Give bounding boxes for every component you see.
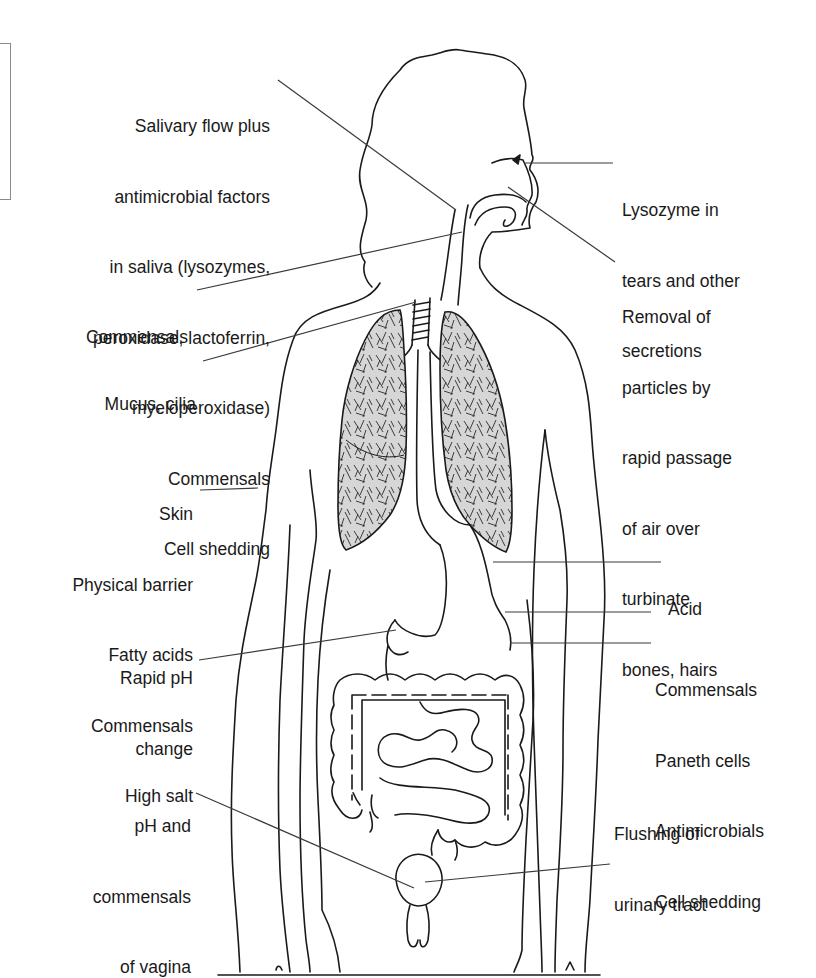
- left-lung: [338, 310, 406, 550]
- label-line: Lysozyme in: [622, 199, 740, 223]
- oral-cavity: [475, 207, 515, 226]
- eye: [513, 155, 520, 164]
- colon-inner-solid: [362, 700, 505, 815]
- label-vagina: pH and commensals of vagina: [40, 768, 191, 978]
- label-line: Physical barrier: [40, 574, 193, 598]
- label-line: Acid: [668, 598, 702, 622]
- left-inner-arm: [300, 470, 316, 972]
- label-line: of air over: [622, 518, 732, 542]
- left-waist: [317, 570, 341, 972]
- leader-urinary: [425, 864, 610, 882]
- label-line: Mucus, cilia: [40, 393, 196, 417]
- label-urinary: Flushing of urinary tract: [614, 776, 706, 941]
- right-arm-outer: [533, 430, 546, 972]
- appendix: [370, 812, 372, 832]
- vagina: [407, 905, 429, 947]
- label-line: change: [40, 738, 193, 762]
- bladder: [396, 854, 442, 906]
- label-line: Paneth cells: [655, 750, 764, 774]
- label-line: Flushing of: [614, 823, 706, 847]
- label-line: of vagina: [40, 956, 191, 978]
- label-line: Skin: [40, 503, 193, 527]
- label-line: rapid passage: [622, 447, 732, 471]
- face-profile: [492, 158, 532, 225]
- leader-vagina: [196, 793, 414, 888]
- left-arm-outer: [279, 525, 291, 972]
- label-line: Commensals: [655, 679, 764, 703]
- label-acid: Acid: [668, 551, 702, 645]
- label-line: commensals: [40, 886, 191, 910]
- rectum: [431, 830, 457, 860]
- label-line: particles by: [622, 377, 732, 401]
- pharynx: [441, 210, 455, 300]
- label-line: Rapid pH: [40, 667, 193, 691]
- label-line: Salivary flow plus: [66, 115, 270, 139]
- label-line: Removal of: [622, 306, 732, 330]
- bronchi: [400, 345, 440, 360]
- small-intestine: [371, 702, 492, 823]
- leader-nasal: [508, 187, 615, 262]
- label-ph-change: Rapid pH change: [40, 620, 193, 785]
- label-line: antimicrobial factors: [66, 186, 270, 210]
- label-mucus: Mucus, cilia: [40, 346, 196, 440]
- right-inner-arm: [545, 430, 567, 972]
- esophagus-upper: [458, 205, 468, 305]
- label-line: pH and: [40, 815, 191, 839]
- nasal-cavity: [470, 194, 526, 218]
- leader-ph-change: [199, 630, 396, 660]
- foot-marks: [276, 962, 574, 970]
- leader-salivary: [278, 80, 456, 210]
- label-line: urinary tract: [614, 894, 706, 918]
- label-line: in saliva (lysozymes,: [66, 256, 270, 280]
